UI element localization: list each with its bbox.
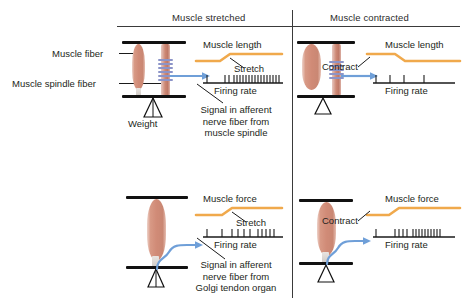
label-muscle-spindle-fiber: Muscle spindle fiber — [12, 78, 96, 89]
column-title-contracted: Muscle contracted — [330, 12, 409, 23]
trace-title-golgi-stretched: Muscle force — [203, 193, 257, 204]
contract-pointer-br — [358, 210, 372, 222]
callout-golgi-line3: Golgi tendon organ — [178, 282, 294, 294]
callout-golgi-line2: nerve fiber from — [178, 271, 294, 283]
event-label-golgi-contracted: Contract — [322, 215, 358, 226]
muscle-belly-tr — [302, 44, 321, 90]
contract-pointer-tr — [358, 56, 372, 68]
golgi-callout-line — [197, 238, 229, 260]
trace-title-spindle-contracted: Muscle length — [385, 39, 444, 50]
weight-support-tl — [138, 97, 168, 119]
column-divider — [292, 10, 293, 298]
spindle-callout-line — [197, 84, 227, 104]
column-title-stretched: Muscle stretched — [172, 12, 245, 23]
figure-canvas: Muscle stretched Muscle contracted Muscl… — [0, 0, 465, 308]
callout-golgi: Signal in afferent nerve fiber from Golg… — [178, 259, 294, 294]
label-weight: Weight — [128, 118, 157, 129]
event-label-spindle-contracted: Contract — [322, 61, 358, 72]
firing-trace-golgi-stretched — [203, 226, 283, 238]
muscle-belly-tl — [132, 44, 145, 90]
fixed-support-tr — [310, 97, 336, 116]
callout-spindle: Signal in afferent nerve fiber from musc… — [182, 104, 290, 139]
trace-title-golgi-contracted: Muscle force — [385, 193, 439, 204]
firing-trace-spindle-contracted — [373, 72, 455, 84]
apparatus-top-bar-tr — [297, 41, 355, 44]
firing-label-spindle-contracted: Firing rate — [385, 85, 428, 96]
length-trace-spindle-contracted — [367, 51, 460, 65]
callout-spindle-line1: Signal in afferent — [182, 104, 290, 116]
force-trace-golgi-contracted — [367, 205, 460, 219]
firing-trace-spindle-stretched — [203, 72, 283, 84]
firing-label-golgi-contracted: Firing rate — [385, 239, 428, 250]
label-muscle-fiber: Muscle fiber — [52, 48, 103, 59]
callout-golgi-line1: Signal in afferent — [178, 259, 294, 271]
fixed-support-br — [313, 264, 339, 284]
afferent-nerve-br — [325, 222, 375, 266]
header-rule — [117, 26, 460, 27]
weight-support-bl — [142, 268, 170, 289]
callout-spindle-line3: muscle spindle — [182, 127, 290, 139]
apparatus-top-bar-tl — [122, 41, 186, 44]
trace-title-spindle-stretched: Muscle length — [203, 39, 262, 50]
callout-spindle-line2: nerve fiber from — [182, 116, 290, 128]
firing-trace-golgi-contracted — [373, 226, 455, 238]
